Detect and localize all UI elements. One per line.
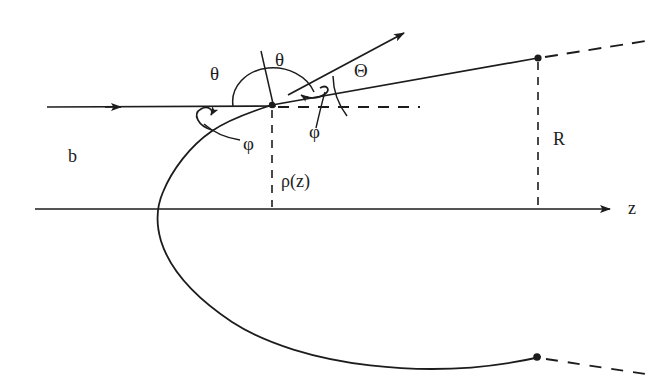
outgoing-momentum-arrow (288, 33, 404, 95)
trajectory-curve (157, 105, 540, 369)
lower-asymptote-dashed-extension (546, 359, 652, 375)
upper-asymptote-dashed-extension (545, 40, 652, 57)
big-theta-scattering-angle-label: Θ (354, 61, 368, 80)
theta-right-label: θ (275, 50, 284, 69)
theta-left-arc (233, 68, 268, 106)
z-axis-label: z (628, 199, 636, 217)
theta-right-arc (268, 68, 314, 92)
phi-left-curl-arrow (197, 108, 212, 130)
scattering-diagram-figure: b z ρ(z) R θ θ φ φ Θ (0, 0, 664, 388)
R-distance-label: R (553, 130, 565, 148)
big-theta-arc (333, 76, 347, 116)
incoming-ray-line (47, 106, 276, 107)
phi-left-label: φ (243, 134, 254, 153)
diagram-canvas (0, 0, 664, 388)
theta-left-label: θ (210, 64, 219, 83)
upper-asymptote-point (534, 54, 541, 61)
rho-of-z-label: ρ(z) (281, 172, 310, 190)
phi-right-label: φ (309, 122, 320, 141)
lower-asymptote-point (533, 353, 541, 361)
impact-parameter-label: b (68, 147, 77, 165)
angle-bisector-line (261, 51, 274, 108)
